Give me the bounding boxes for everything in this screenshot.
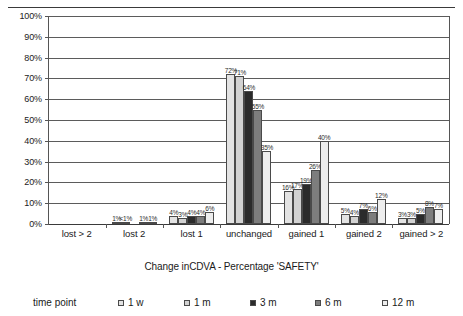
bar-group: 1%<1%1%1% (106, 16, 163, 224)
legend: time point 1 w1 m3 m6 m12 m (0, 293, 463, 313)
bar[interactable]: 4% (350, 216, 359, 224)
y-axis-tick-label: 80% (24, 53, 42, 62)
bar-value-label: 4% (187, 209, 196, 216)
bar-group: 3%3%5%8%7% (392, 16, 449, 224)
bar[interactable]: 3% (407, 218, 416, 224)
legend-item-label: 1 m (194, 297, 211, 309)
bar[interactable]: 12% (377, 199, 386, 224)
bar[interactable]: 7% (359, 209, 368, 224)
legend-swatch-icon (315, 300, 321, 306)
legend-item-label: 1 w (128, 297, 144, 309)
bar[interactable]: 5% (416, 214, 425, 224)
bar-value-label: 5% (416, 207, 425, 214)
bar[interactable]: 71% (235, 76, 244, 224)
bar-slot: 17% (293, 16, 302, 224)
bar-slot: 5% (341, 16, 350, 224)
bar-slot: 19% (302, 16, 311, 224)
bar[interactable]: 40% (320, 141, 329, 224)
bar[interactable]: 4% (169, 216, 178, 224)
bar-value-label: 3% (178, 211, 187, 218)
legend-swatch-icon (118, 300, 124, 306)
bar[interactable]: 4% (196, 216, 205, 224)
y-axis-tick-label: 100% (19, 12, 42, 21)
x-axis-category-label: unchanged (220, 228, 277, 239)
bar[interactable]: 64% (244, 91, 253, 224)
bar-slot (82, 16, 91, 224)
bar-slot: 4% (169, 16, 178, 224)
bar[interactable]: 55% (253, 110, 262, 224)
legend-item-label: 3 m (260, 297, 277, 309)
plot-area: 1%<1%1%1%4%3%4%4%6%72%71%64%55%35%16%17%… (48, 16, 450, 224)
bar-value-label: 5% (341, 207, 350, 214)
legend-item[interactable]: 3 m (250, 297, 277, 309)
bar-slot: 12% (377, 16, 386, 224)
x-axis-category-label: lost > 2 (48, 228, 105, 239)
bar-slot: 4% (196, 16, 205, 224)
bar-slot: 8% (425, 16, 434, 224)
legend-swatch-icon (250, 300, 256, 306)
y-axis-tick-label: 20% (24, 178, 42, 187)
bar-value-label: 3% (398, 211, 407, 218)
legend-item[interactable]: 12 m (382, 297, 414, 309)
bar[interactable]: 1% (139, 222, 148, 224)
bar[interactable]: 6% (368, 212, 377, 224)
bar-value-label: 7% (359, 202, 368, 209)
bar-slot: 7% (359, 16, 368, 224)
bar-slot: 5% (416, 16, 425, 224)
bar-group: 5%4%7%6%12% (335, 16, 392, 224)
y-axis-tick-label: 50% (24, 116, 42, 125)
bar-slot (130, 16, 139, 224)
bar[interactable]: 19% (302, 184, 311, 224)
bar[interactable]: 3% (178, 218, 187, 224)
bar[interactable]: 16% (284, 191, 293, 224)
bar[interactable]: <1% (121, 222, 130, 224)
legend-item-label: 6 m (325, 297, 342, 309)
y-axis-tick-label: 30% (24, 157, 42, 166)
y-axis-tick-label: 40% (24, 136, 42, 145)
bar-slot (64, 16, 73, 224)
bar-value-label: 4% (169, 209, 178, 216)
bar[interactable]: 35% (262, 151, 271, 224)
legend-title: time point (33, 297, 76, 309)
bar[interactable]: 1% (148, 222, 157, 224)
bar[interactable]: 7% (434, 209, 443, 224)
bar[interactable]: 4% (187, 216, 196, 224)
bar-value-label: 1% (139, 215, 148, 222)
bar[interactable]: 8% (425, 207, 434, 224)
bar-slot (55, 16, 64, 224)
bar-group (49, 16, 106, 224)
bar-slot: 7% (434, 16, 443, 224)
x-axis-title: Change inCDVA - Percentage 'SAFETY' (0, 261, 463, 273)
bar-slot: 71% (235, 16, 244, 224)
bar-group: 16%17%19%26%40% (278, 16, 335, 224)
x-axis-category-label: gained > 2 (393, 228, 450, 239)
bar-slot: 1% (139, 16, 148, 224)
x-axis-category-label: gained 2 (335, 228, 392, 239)
y-axis-tick-label: 90% (24, 32, 42, 41)
bar-value-label: 1% (148, 215, 157, 222)
bar[interactable]: 6% (205, 212, 214, 224)
bar-value-label: 6% (368, 205, 377, 212)
y-axis-tick-label: 0% (29, 220, 42, 229)
bar[interactable]: 26% (311, 170, 320, 224)
gridline (49, 224, 449, 225)
bar-group: 72%71%64%55%35% (220, 16, 277, 224)
x-axis-category-label: lost 2 (105, 228, 162, 239)
legend-swatch-icon (184, 300, 190, 306)
bar[interactable]: 17% (293, 189, 302, 224)
bar[interactable]: 1% (112, 222, 121, 224)
x-axis-category-label: lost 1 (163, 228, 220, 239)
bar[interactable]: 3% (398, 218, 407, 224)
legend-item[interactable]: 1 m (184, 297, 211, 309)
legend-item[interactable]: 1 w (118, 297, 144, 309)
bar-value-label: 4% (350, 209, 359, 216)
bar-chart: 100%90%80%70%60%50%40%30%20%10%0% 1%<1%1… (0, 16, 463, 246)
legend-item[interactable]: 6 m (315, 297, 342, 309)
x-axis-labels: lost > 2lost 2lost 1unchangedgained 1gai… (48, 228, 450, 239)
bar-slot: 72% (226, 16, 235, 224)
bar[interactable]: 5% (341, 214, 350, 224)
bar-value-label: 35% (261, 144, 273, 151)
legend-item-label: 12 m (392, 297, 414, 309)
bar-slot: 6% (205, 16, 214, 224)
bar[interactable]: 72% (226, 74, 235, 224)
